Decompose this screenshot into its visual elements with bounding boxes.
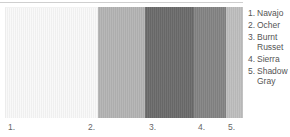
legend-label: Sierra [257, 54, 290, 64]
legend-number: 5. [248, 66, 257, 86]
swatch-number-5: 5. [228, 121, 235, 133]
swatch-navajo [5, 7, 98, 118]
legend-number: 4. [248, 54, 257, 64]
legend-label: Navajo [257, 8, 290, 18]
swatch-number-labels: 1. 2. 3. 4. 5. [0, 121, 290, 135]
legend-item-navajo: 1. Navajo [248, 8, 290, 18]
legend-number: 1. [248, 8, 257, 18]
legend-number: 3. [248, 32, 257, 52]
swatch-shadow-gray [226, 7, 243, 118]
legend-label: Shadow Gray [257, 66, 290, 86]
legend-item-burnt-russet: 3. Burnt Russet [248, 32, 290, 52]
legend-item-ocher: 2. Ocher [248, 20, 290, 30]
swatch-number-1: 1. [8, 121, 15, 133]
swatch-burnt-russet [145, 7, 194, 118]
color-swatch-strip [5, 7, 243, 118]
swatch-number-3: 3. [149, 121, 156, 133]
legend-label: Ocher [257, 20, 290, 30]
swatch-sierra [194, 7, 226, 118]
legend-number: 2. [248, 20, 257, 30]
legend-label: Burnt Russet [257, 32, 290, 52]
legend-item-shadow-gray: 5. Shadow Gray [248, 66, 290, 86]
top-divider [0, 2, 243, 3]
color-legend: 1. Navajo 2. Ocher 3. Burnt Russet 4. Si… [248, 8, 290, 88]
legend-item-sierra: 4. Sierra [248, 54, 290, 64]
swatch-number-4: 4. [198, 121, 205, 133]
swatch-number-2: 2. [88, 121, 95, 133]
swatch-ocher [98, 7, 145, 118]
